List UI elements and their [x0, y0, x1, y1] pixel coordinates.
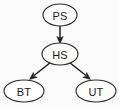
node-ut[interactable]: UT — [76, 80, 116, 102]
node-bt[interactable]: BT — [4, 80, 44, 102]
node-hs-label: HS — [52, 49, 68, 61]
edge-hs-to-bt-line — [34, 63, 51, 76]
node-ps[interactable]: PS — [43, 4, 77, 26]
edge-hs-to-bt — [30, 63, 51, 80]
node-ut-label: UT — [88, 86, 103, 98]
diagram-canvas: PS HS BT UT — [0, 0, 119, 108]
node-bt-label: BT — [17, 86, 32, 98]
node-ps-label: PS — [52, 10, 67, 22]
directed-graph: PS HS BT UT — [0, 0, 119, 108]
edge-hs-to-ut — [70, 63, 91, 80]
edge-ps-to-hs — [57, 26, 63, 44]
node-hs[interactable]: HS — [42, 43, 78, 65]
edge-hs-to-ut-line — [70, 63, 87, 76]
